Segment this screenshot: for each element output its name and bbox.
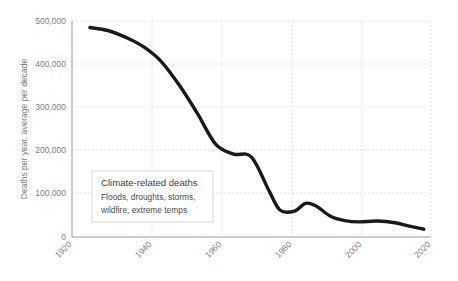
x-tick-label-2020: 2020 — [412, 239, 433, 260]
annotation-line-1: Floods, droughts, storms, — [101, 192, 196, 202]
y-tick-label-500000: 500,000 — [35, 16, 66, 26]
y-tick-label-100000: 100,000 — [35, 188, 66, 198]
y-tick-label-400000: 400,000 — [35, 59, 66, 69]
x-tick-label-2000: 2000 — [343, 239, 364, 260]
x-tick-label-1980: 1980 — [273, 239, 294, 260]
annotation-line-2: wildfire, extreme temps — [100, 205, 187, 215]
chart-canvas: 500,000 400,000 300,000 200,000 100,000 … — [0, 0, 458, 281]
horizontal-gridlines — [72, 21, 431, 193]
climate-deaths-chart: 500,000 400,000 300,000 200,000 100,000 … — [0, 0, 458, 281]
x-axis-tick-labels: 1920 1940 1960 1980 2000 2020 — [53, 239, 433, 260]
x-tick-label-1960: 1960 — [203, 239, 224, 260]
annotation-title: Climate-related deaths — [101, 177, 198, 188]
x-tick-label-1920: 1920 — [53, 239, 74, 260]
y-axis-title: Deaths per year, average per decade — [19, 59, 29, 200]
y-tick-label-300000: 300,000 — [35, 102, 66, 112]
x-tick-label-1940: 1940 — [133, 239, 154, 260]
y-tick-label-200000: 200,000 — [35, 145, 66, 155]
annotation-callout: Climate-related deaths Floods, droughts,… — [92, 171, 213, 222]
y-axis-tick-labels: 500,000 400,000 300,000 200,000 100,000 … — [35, 16, 66, 242]
